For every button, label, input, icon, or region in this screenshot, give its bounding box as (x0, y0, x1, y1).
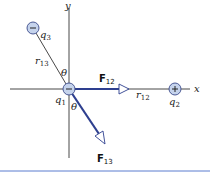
y-axis-label: y (64, 0, 71, 11)
r13-label: r13 (35, 55, 49, 68)
q1-label: q1 (55, 94, 66, 107)
x-axis-label: x (194, 83, 200, 94)
q3-label: q3 (40, 29, 51, 42)
charge-q3 (27, 22, 39, 34)
coulomb-force-diagram: y x q3 q1 q2 r13 r12 θ θ F12 F13 (0, 0, 210, 173)
f13-label: F13 (97, 153, 113, 166)
f12-label: F12 (99, 73, 115, 86)
theta-upper-label: θ (61, 67, 67, 78)
f13-arrowhead-icon (95, 131, 105, 144)
charge-q1 (63, 83, 75, 95)
charge-q2 (169, 83, 181, 95)
theta-lower-label: θ (71, 101, 77, 112)
r12-label: r12 (136, 89, 150, 102)
f12-arrowhead-icon (119, 84, 129, 94)
q2-label: q2 (169, 96, 180, 109)
